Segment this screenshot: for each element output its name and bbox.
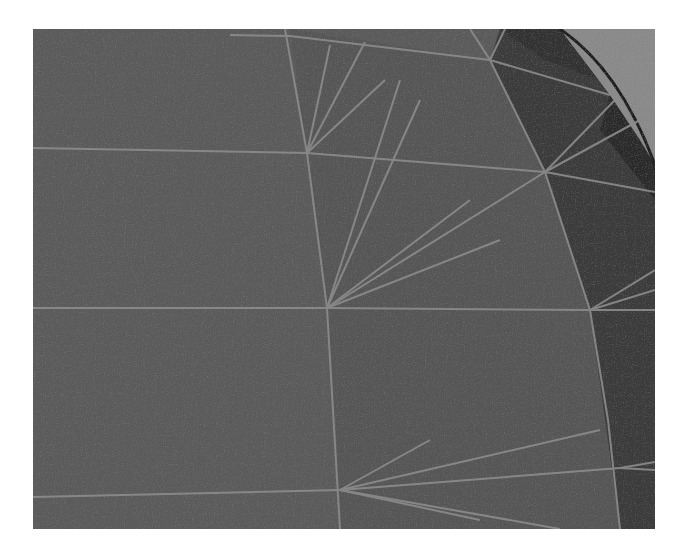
mesh-svg xyxy=(33,29,655,529)
wireframe-render xyxy=(33,29,655,529)
mesh-faces xyxy=(33,29,655,529)
